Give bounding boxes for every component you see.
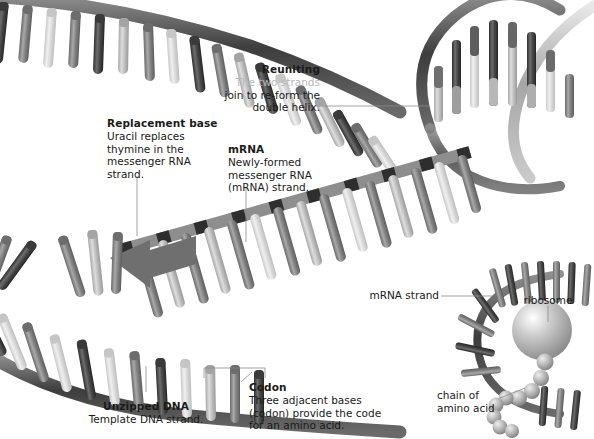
label-mrna: mRNA Newly-formed messenger RNA (mRNA) s…: [228, 143, 348, 194]
splayed-bases-left: [0, 229, 123, 298]
label-mrna-line1: Newly-formed: [228, 156, 348, 169]
label-reuniting-line1: The two strands: [140, 76, 320, 89]
ribosome-sphere: [512, 300, 572, 360]
label-replacement-base: Replacement base Uracil replaces thymine…: [107, 117, 237, 181]
label-unzipped-dna-line1: Template DNA strand.: [66, 413, 226, 426]
label-codon-heading: Codon: [249, 381, 409, 394]
label-amino-chain-line1: chain of: [437, 389, 517, 402]
label-mrna-heading: mRNA: [228, 143, 348, 156]
label-codon-line3: for an amino acid.: [249, 419, 409, 432]
label-reuniting-heading: Reuniting: [140, 63, 320, 76]
label-reuniting: Reuniting The two strands join to re-for…: [140, 63, 320, 114]
label-ribosome-text: ribosome: [512, 294, 584, 307]
label-codon: Codon Three adjacent bases (codon) provi…: [249, 381, 409, 432]
label-unzipped-dna: Unzipped DNA Template DNA strand.: [66, 400, 226, 426]
label-codon-line2: (codon) provide the code: [249, 407, 409, 420]
dna-transcription-diagram: Reuniting The two strands join to re-for…: [0, 0, 594, 439]
label-reuniting-line3: double helix.: [140, 101, 320, 114]
label-mrna-strand: mRNA strand: [341, 289, 439, 302]
label-mrna-line3: (mRNA) strand.: [228, 181, 348, 194]
label-amino-chain: chain of amino acid: [437, 389, 517, 415]
label-unzipped-dna-heading: Unzipped DNA: [66, 400, 226, 413]
label-amino-chain-line2: amino acid: [437, 402, 517, 415]
label-ribosome: ribosome: [512, 294, 584, 307]
label-replacement-base-line4: strand.: [107, 168, 237, 181]
label-replacement-base-line2: thymine in the: [107, 143, 237, 156]
label-replacement-base-line3: messenger RNA: [107, 155, 237, 168]
label-reuniting-line2: join to re-form the: [140, 89, 320, 102]
label-codon-line1: Three adjacent bases: [249, 394, 409, 407]
label-replacement-base-heading: Replacement base: [107, 117, 237, 130]
label-mrna-line2: messenger RNA: [228, 169, 348, 182]
label-replacement-base-line1: Uracil replaces: [107, 130, 237, 143]
label-mrna-strand-text: mRNA strand: [341, 289, 439, 302]
